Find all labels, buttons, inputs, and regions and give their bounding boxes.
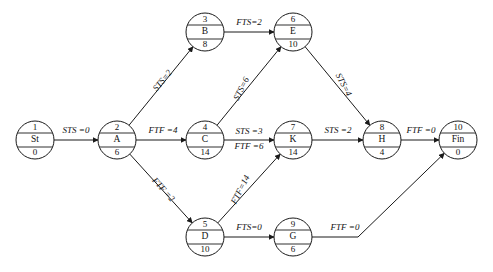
node-number: 4 bbox=[203, 122, 208, 132]
node-duration: 14 bbox=[201, 147, 211, 157]
node-fin[interactable]: 10Fin0 bbox=[439, 121, 477, 159]
node-label: Fin bbox=[452, 134, 465, 144]
node-number: 10 bbox=[454, 122, 464, 132]
node-c[interactable]: 4C14 bbox=[186, 121, 224, 159]
edge-label-g-fin: FTF =0 bbox=[330, 222, 360, 232]
network-canvas: 1St02A63B84C145D106E107K149G68H410Fin0 S… bbox=[0, 0, 493, 272]
edge-label-a-d: FTF =2 bbox=[150, 175, 178, 204]
activity-network-diagram: 1St02A63B84C145D106E107K149G68H410Fin0 S… bbox=[0, 0, 493, 272]
edge-label-k-h: STS =2 bbox=[325, 125, 352, 135]
node-e[interactable]: 6E10 bbox=[274, 13, 312, 51]
node-st[interactable]: 1St0 bbox=[16, 121, 54, 159]
node-number: 3 bbox=[203, 14, 208, 24]
edge-label-st-a: STS =0 bbox=[63, 125, 90, 135]
node-number: 9 bbox=[291, 219, 296, 229]
node-duration: 10 bbox=[201, 244, 211, 254]
edge-label-a-c: FTF =4 bbox=[148, 125, 178, 135]
edge-label-c-k-2: FTF =6 bbox=[234, 141, 264, 151]
node-number: 7 bbox=[291, 122, 296, 132]
node-label: A bbox=[114, 134, 121, 144]
node-label: G bbox=[290, 231, 297, 241]
node-label: E bbox=[290, 26, 296, 36]
edge-label-b-e: FTS=2 bbox=[235, 17, 262, 27]
edge-label-c-e: STS=6 bbox=[231, 75, 251, 102]
node-d[interactable]: 5D10 bbox=[186, 218, 224, 256]
node-k[interactable]: 7K14 bbox=[274, 121, 312, 159]
edge-label-h-fin: FTF =0 bbox=[406, 125, 436, 135]
node-b[interactable]: 3B8 bbox=[186, 13, 224, 51]
edge-label-c-k-1: STS =3 bbox=[236, 126, 263, 136]
node-label: H bbox=[379, 134, 386, 144]
node-duration: 10 bbox=[289, 39, 299, 49]
node-duration: 4 bbox=[380, 147, 385, 157]
node-label: B bbox=[202, 26, 208, 36]
edge-label-a-b: STS=2 bbox=[151, 67, 175, 93]
node-g[interactable]: 9G6 bbox=[274, 218, 312, 256]
node-label: D bbox=[202, 231, 209, 241]
node-label: K bbox=[290, 134, 297, 144]
edge-label-d-g: FTS=0 bbox=[235, 222, 262, 232]
edge-d-to-k bbox=[218, 154, 280, 223]
node-number: 2 bbox=[115, 122, 120, 132]
node-a[interactable]: 2A6 bbox=[98, 121, 136, 159]
node-duration: 6 bbox=[291, 244, 296, 254]
node-label: St bbox=[31, 134, 39, 144]
node-label: C bbox=[202, 134, 208, 144]
node-duration: 0 bbox=[33, 147, 38, 157]
node-duration: 8 bbox=[203, 39, 208, 49]
node-duration: 0 bbox=[456, 147, 461, 157]
node-h[interactable]: 8H4 bbox=[363, 121, 401, 159]
node-duration: 14 bbox=[289, 147, 299, 157]
edge-c-to-e bbox=[217, 47, 281, 126]
node-duration: 6 bbox=[115, 147, 120, 157]
node-number: 6 bbox=[291, 14, 296, 24]
node-number: 5 bbox=[203, 219, 208, 229]
node-number: 8 bbox=[380, 122, 385, 132]
node-number: 1 bbox=[33, 122, 38, 132]
edge-e-to-h bbox=[305, 47, 370, 126]
